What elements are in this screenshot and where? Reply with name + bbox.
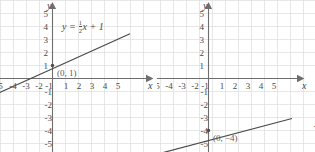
y-tick-label: 1 [44,61,49,71]
fraction-numerator: 1 [79,20,82,27]
x-tick-label: 2 [77,81,82,91]
y-tick-label: -1 [45,87,53,97]
left-graph: x y -5 -4 -3 -2 -1 1 2 3 4 5 5 4 3 2 1 -… [0,0,157,152]
x-tick-labels: -5 -4 -3 -2 -1 1 2 3 4 5 [0,81,121,91]
equation-label: y = 1 2 x + 1 [62,20,104,35]
x-tick-label: 4 [103,81,108,91]
x-tick-label: 2 [233,81,238,91]
y-tick-label: 5 [200,9,205,19]
y-tick-label: -3 [45,113,53,123]
y-tick-label: 5 [44,9,49,19]
x-tick-label: 3 [246,81,251,91]
x-tick-label: -2 [191,81,199,91]
equation-coefficient-fraction: 1 2 [79,20,82,35]
x-tick-labels: -5 -4 -3 -2 -1 1 2 3 4 5 [157,81,277,91]
equation-lhs: y [62,21,66,32]
y-tick-label: -4 [45,126,53,136]
point-label: (0, −4) [213,133,238,143]
y-tick-label: 4 [44,22,49,32]
x-tick-label: 5 [272,81,277,91]
x-tick-label: 1 [64,81,69,91]
x-tick-label: -5 [0,81,3,91]
x-tick-label: 1 [220,81,225,91]
x-tick-label: -3 [22,81,30,91]
x-axis-label: x [147,80,153,91]
fraction-denominator: 2 [79,26,82,34]
x-tick-label: 3 [90,81,95,91]
equation-equals: = [69,21,76,32]
x-tick-label: -2 [35,81,43,91]
point-label: (0, 1) [57,68,77,78]
equation-constant: 1 [99,21,104,32]
x-tick-label: -3 [178,81,186,91]
y-tick-label: -2 [45,100,53,110]
right-graph-canvas: x y -5 -4 -3 -2 -1 1 2 3 4 5 5 4 3 2 1 -… [157,0,315,152]
y-tick-label: -1 [201,87,209,97]
equation-variable: x [82,21,86,32]
y-tick-label: 4 [200,22,205,32]
axes [157,6,297,152]
y-tick-label: 2 [44,48,49,58]
equation-sign: + [89,21,96,32]
y-tick-label: 2 [200,48,205,58]
grid-lines [157,0,315,152]
x-tick-label: -4 [165,81,173,91]
x-tick-label: -5 [157,81,160,91]
y-intercept-point [51,64,54,67]
y-tick-label: -3 [201,113,209,123]
y-tick-label: 3 [200,35,205,45]
y-intercept-point [207,129,210,132]
x-tick-label: 5 [116,81,121,91]
right-graph: x y -5 -4 -3 -2 -1 1 2 3 4 5 5 4 3 2 1 -… [157,0,315,152]
figure-container: x y -5 -4 -3 -2 -1 1 2 3 4 5 5 4 3 2 1 -… [0,0,315,152]
y-tick-label: 3 [44,35,49,45]
y-tick-label: -5 [45,139,53,149]
y-tick-label: 1 [200,61,205,71]
x-axis-label: x [301,80,307,91]
x-tick-label: 4 [259,81,264,91]
y-tick-label: -2 [201,100,209,110]
